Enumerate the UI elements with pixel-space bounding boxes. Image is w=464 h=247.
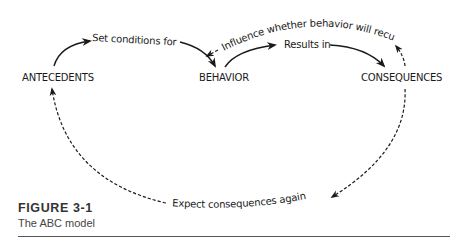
arrow-label-to-behavior — [180, 42, 215, 66]
node-behavior: BEHAVIOR — [199, 72, 249, 83]
arrow-influence-to-behavior — [207, 50, 218, 56]
label-set-conditions: Set conditions for — [92, 32, 178, 47]
label-expect-text: Expect consequences again — [172, 190, 307, 210]
arrow-consequences-to-influence — [396, 46, 405, 66]
label-expect-again: Expect consequences again — [172, 190, 307, 210]
figure-number: FIGURE 3-1 — [18, 201, 93, 215]
node-consequences: CONSEQUENCES — [361, 72, 442, 83]
node-antecedents: ANTECEDENTS — [22, 72, 94, 83]
arrow-results-to-consequences — [330, 45, 384, 66]
figure-caption: The ABC model — [18, 217, 95, 229]
label-results-in: Results in — [284, 39, 330, 50]
arrow-expect-to-antecedents — [52, 89, 166, 203]
arrow-consequences-to-expect — [332, 89, 405, 197]
arrow-antecedents-to-label — [54, 41, 90, 66]
caption-divider — [18, 236, 450, 237]
